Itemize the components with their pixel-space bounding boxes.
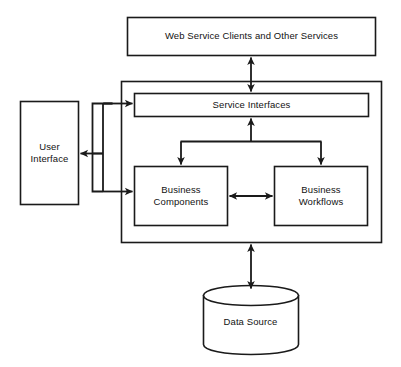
business-workflows-box (275, 167, 368, 226)
service-interfaces-box (135, 94, 369, 117)
connector-user-interface-feeder (94, 104, 104, 192)
diagram-vector-layer (0, 0, 401, 367)
user-interface-box (21, 102, 79, 205)
diagram-canvas: Web Service Clients and Other Services S… (0, 0, 401, 367)
data-source-cylinder (204, 286, 299, 355)
business-components-box (135, 167, 228, 226)
connector-user-interface-loop (93, 104, 104, 192)
web-service-clients-box (128, 18, 376, 56)
